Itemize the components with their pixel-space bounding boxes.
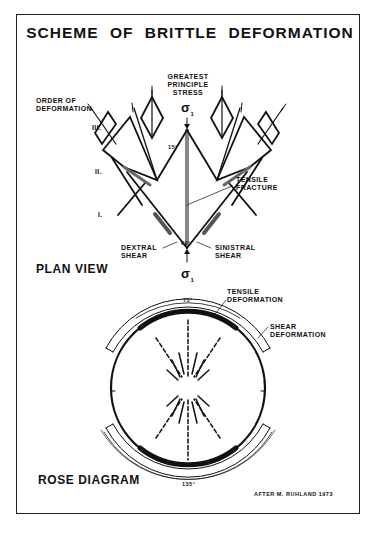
order-i-label: I. <box>98 211 103 219</box>
rose-diagram-heading: ROSE DIAGRAM <box>38 473 140 487</box>
label-line: SHEAR <box>270 323 326 331</box>
dextral-shear-label: DEXTRAL SHEAR <box>121 244 157 260</box>
sigma-subscript: 1 <box>191 111 195 117</box>
label-line: SHEAR <box>215 252 256 260</box>
label-line: GREATEST <box>163 73 213 81</box>
sigma-subscript: 1 <box>191 277 195 283</box>
sigma-top-label: σ1 <box>181 100 194 117</box>
credit-text: AFTER M. RUHLAND 1973 <box>254 491 333 497</box>
angle-60-label: 60° <box>181 240 191 246</box>
label-line: SHEAR <box>121 252 157 260</box>
angle-135-label: 135° <box>182 481 195 487</box>
label-line: PRINCIPLE <box>163 81 213 89</box>
sigma-bottom-label: σ1 <box>181 266 194 283</box>
order-of-deformation-label: ORDER OF DEFORMATION <box>36 97 92 113</box>
label-line: FRACTURE <box>236 184 278 192</box>
order-ii-label: II. <box>95 168 102 176</box>
label-line: ORDER OF <box>36 97 92 105</box>
label-line: SINISTRAL <box>215 244 256 252</box>
shear-deformation-label: SHEAR DEFORMATION <box>270 323 326 339</box>
label-line: DEFORMATION <box>227 296 283 304</box>
label-line: DEFORMATION <box>270 331 326 339</box>
label-line: TENSILE <box>227 288 283 296</box>
tensile-deformation-label: TENSILE DEFORMATION <box>227 288 283 304</box>
label-line: DEXTRAL <box>121 244 157 252</box>
tensile-fracture-label: TENSILE FRACTURE <box>236 176 278 192</box>
greatest-stress-label: GREATEST PRINCIPLE STRESS <box>163 73 213 97</box>
order-iii-label: III. <box>92 124 101 132</box>
plan-view-heading: PLAN VIEW <box>36 262 108 276</box>
sinistral-shear-label: SINISTRAL SHEAR <box>215 244 256 260</box>
label-line: STRESS <box>163 89 213 97</box>
angle-15-label: 15° <box>168 144 178 150</box>
label-line: TENSILE <box>236 176 278 184</box>
sigma-symbol: σ <box>181 100 191 115</box>
sigma-symbol: σ <box>181 266 191 281</box>
angle-75-label: 75° <box>183 297 193 303</box>
label-line: DEFORMATION <box>36 105 92 113</box>
